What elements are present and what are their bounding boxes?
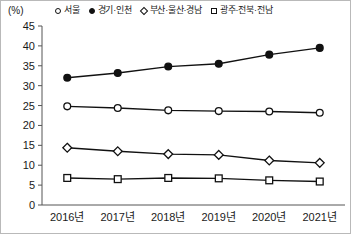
y-tick-label: 15: [23, 139, 35, 151]
data-point: [266, 177, 273, 184]
y-tick-label: 10: [23, 159, 35, 171]
data-point: [266, 51, 273, 58]
data-point: [316, 44, 323, 51]
x-axis: 2016년2017년2018년2019년2020년2021년: [42, 205, 345, 223]
series-square: [64, 175, 323, 185]
series-diamond: [63, 143, 324, 167]
series-layer: [63, 44, 324, 184]
data-point: [164, 150, 173, 159]
data-point: [64, 175, 71, 182]
y-tick-label: 45: [23, 20, 35, 32]
x-tick-label: 2018년: [151, 211, 185, 223]
y-axis: 454035302520151050: [23, 20, 42, 211]
data-point: [114, 176, 121, 183]
data-point: [215, 175, 222, 182]
chart-container: (%) 서울 경기·인천 부산·울산·경남 광주·전북·전남 454035302…: [0, 0, 351, 234]
data-point: [114, 70, 121, 77]
data-point: [113, 147, 122, 156]
x-tick-label: 2020년: [252, 211, 286, 223]
data-point: [265, 156, 274, 165]
x-tick-label: 2019년: [202, 211, 236, 223]
y-tick-label: 30: [23, 80, 35, 92]
x-tick-label: 2021년: [303, 211, 337, 223]
y-tick-label: 5: [29, 179, 35, 191]
data-point: [114, 105, 121, 112]
series-filled-circle: [64, 44, 323, 81]
data-point: [165, 175, 172, 182]
data-point: [316, 178, 323, 185]
data-point: [63, 143, 72, 152]
series-open-circle: [64, 103, 323, 116]
y-tick-label: 0: [29, 199, 35, 211]
data-point: [64, 74, 71, 81]
data-point: [215, 60, 222, 67]
data-point: [315, 158, 324, 167]
data-point: [316, 109, 323, 116]
y-tick-label: 35: [23, 60, 35, 72]
data-point: [214, 150, 223, 159]
data-point: [266, 108, 273, 115]
y-tick-label: 40: [23, 40, 35, 52]
data-point: [165, 63, 172, 70]
chart-plot-area: 454035302520151050 2016년2017년2018년2019년2…: [1, 1, 353, 236]
x-tick-label: 2017년: [101, 211, 135, 223]
y-tick-label: 25: [23, 100, 35, 112]
data-point: [64, 103, 71, 110]
data-point: [165, 107, 172, 114]
y-tick-label: 20: [23, 119, 35, 131]
x-tick-label: 2016년: [50, 211, 84, 223]
data-point: [215, 108, 222, 115]
